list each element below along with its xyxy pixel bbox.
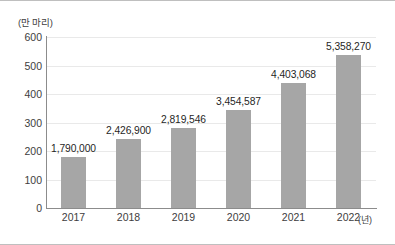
- y-axis-tick-label: 200: [8, 145, 42, 157]
- y-axis-tick-label: 500: [8, 60, 42, 72]
- y-axis-tick-label: 400: [8, 88, 42, 100]
- bar-value-label: 1,790,000: [51, 143, 96, 154]
- y-axis-tick-label: 100: [8, 174, 42, 186]
- bar-group: 5,358,270: [321, 37, 376, 208]
- bar-group: 1,790,000: [46, 37, 101, 208]
- bar-group: 4,403,068: [266, 37, 321, 208]
- y-axis-line: [46, 36, 47, 209]
- bar-group: 3,454,587: [211, 37, 266, 208]
- bar-value-label: 2,426,900: [106, 125, 151, 136]
- bar[interactable]: [226, 110, 251, 208]
- plot-area: 1,790,0002,426,9002,819,5463,454,5874,40…: [46, 37, 376, 208]
- bar-group: 2,426,900: [101, 37, 156, 208]
- bar-chart-figure: (만 마리) 0100200300400500600 1,790,0002,42…: [0, 0, 395, 245]
- x-axis-tick-label: 2022: [321, 211, 376, 223]
- bar-value-label: 2,819,546: [161, 114, 206, 125]
- y-axis-tick-labels: 0100200300400500600: [0, 1, 42, 245]
- bar-group: 2,819,546: [156, 37, 211, 208]
- bar[interactable]: [61, 157, 86, 208]
- bar[interactable]: [281, 83, 306, 208]
- x-axis-line: [46, 208, 377, 209]
- y-axis-tick-label: 300: [8, 117, 42, 129]
- bar-value-label: 4,403,068: [271, 69, 316, 80]
- bar[interactable]: [336, 55, 361, 208]
- x-axis-tick-label: 2021: [266, 211, 321, 223]
- y-axis-tick-label: 0: [8, 202, 42, 214]
- bar-value-label: 3,454,587: [216, 96, 261, 107]
- x-axis-tick-label: 2017: [46, 211, 101, 223]
- y-axis-tick-label: 600: [8, 31, 42, 43]
- x-axis-tick-label: 2020: [211, 211, 266, 223]
- x-axis-tick-label: 2019: [156, 211, 211, 223]
- x-axis-tick-label: 2018: [101, 211, 156, 223]
- bar-value-label: 5,358,270: [326, 41, 371, 52]
- bar[interactable]: [171, 128, 196, 208]
- bar[interactable]: [116, 139, 141, 208]
